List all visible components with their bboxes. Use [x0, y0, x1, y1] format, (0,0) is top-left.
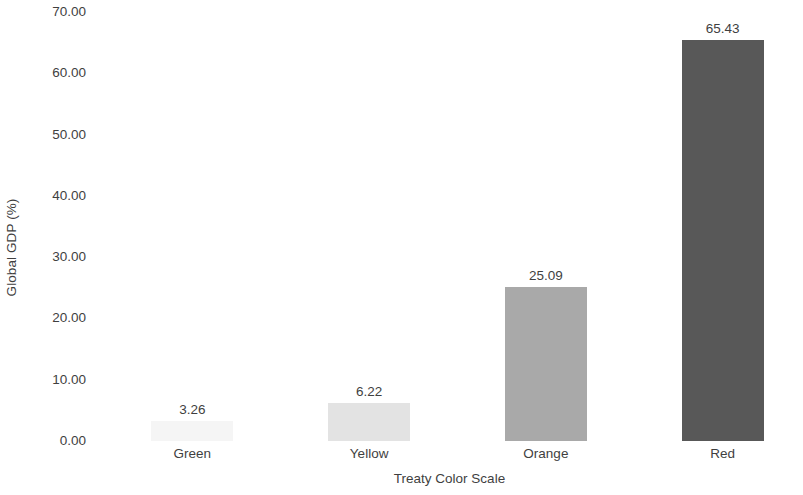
bar-green[interactable]: [151, 421, 233, 441]
bar-slot: 6.22: [328, 12, 410, 441]
bar-value-label: 25.09: [529, 268, 563, 284]
x-axis-tick-label: Green: [151, 445, 233, 463]
y-axis-title: Global GDP (%): [0, 0, 22, 495]
y-axis-tick-label: 30.00: [22, 249, 86, 265]
y-axis-tick-label: 20.00: [22, 310, 86, 326]
bar-slot: 25.09: [505, 12, 587, 441]
x-axis-tick-labels: Green Yellow Orange Red: [96, 441, 803, 469]
y-axis-tick-labels: 70.00 60.00 50.00 40.00 30.00 20.00 10.0…: [22, 0, 86, 495]
bar-chart: Global GDP (%) 70.00 60.00 50.00 40.00 3…: [0, 0, 803, 495]
y-axis-tick-label: 10.00: [22, 372, 86, 388]
bar-value-label: 6.22: [356, 384, 382, 400]
y-axis-tick-label: 70.00: [22, 4, 86, 20]
bar-yellow[interactable]: [328, 403, 410, 441]
y-axis-tick-label: 50.00: [22, 127, 86, 143]
plot-area: 3.26 6.22 25.09 65.43: [96, 12, 803, 441]
y-axis-tick-label: 0.00: [22, 433, 86, 449]
x-axis-title: Treaty Color Scale: [96, 470, 803, 488]
bar-slot: 65.43: [682, 12, 764, 441]
bar-slot: 3.26: [151, 12, 233, 441]
bar-red[interactable]: [682, 40, 764, 441]
bar-orange[interactable]: [505, 287, 587, 441]
x-axis-tick-label: Yellow: [328, 445, 410, 463]
x-axis-tick-label: Red: [682, 445, 764, 463]
x-axis-tick-label: Orange: [505, 445, 587, 463]
y-axis-tick-label: 60.00: [22, 65, 86, 81]
bar-value-label: 65.43: [706, 21, 740, 37]
bar-value-label: 3.26: [179, 402, 205, 418]
y-axis-tick-label: 40.00: [22, 188, 86, 204]
